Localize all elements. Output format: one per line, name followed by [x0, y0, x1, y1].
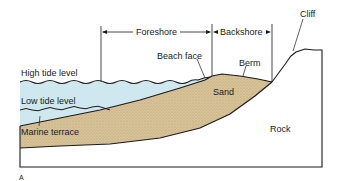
beach-profile-diagram: Foreshore Backshore Cliff Beach face Ber… [0, 0, 339, 181]
arrowhead-icon [213, 30, 218, 34]
high-tide-label: High tide level [21, 68, 78, 78]
marine-terrace-label: Marine terrace [21, 127, 79, 137]
sand-label: Sand [213, 87, 234, 97]
panel-letter: A [19, 174, 24, 181]
arrowhead-icon [266, 30, 271, 34]
low-tide-label: Low tide level [21, 96, 76, 106]
beach-face-leader-line [197, 59, 205, 78]
cliff-label: Cliff [300, 9, 316, 19]
cliff-leader-line [293, 19, 303, 51]
rock-label: Rock [270, 124, 291, 134]
arrowhead-icon [102, 30, 107, 34]
foreshore-label: Foreshore [136, 27, 177, 37]
berm-label: Berm [239, 58, 261, 68]
backshore-label: Backshore [220, 27, 263, 37]
beach-face-label: Beach face [157, 51, 202, 61]
arrowhead-icon [206, 30, 211, 34]
